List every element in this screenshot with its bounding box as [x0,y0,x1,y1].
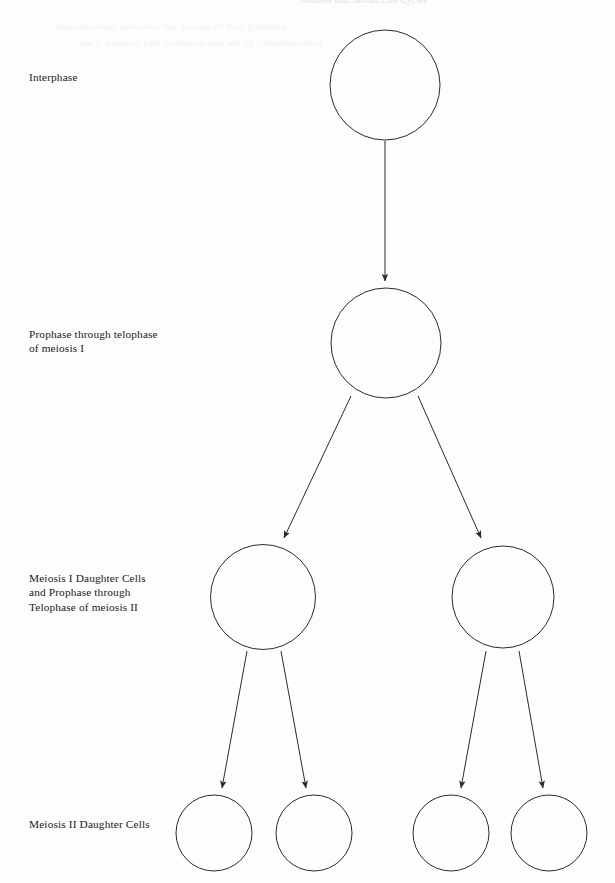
arrow-daughter-right-to-ii-3 [461,651,486,788]
arrow-daughter-right-to-ii-4 [519,651,543,788]
arrow-daughter-left-to-ii-1 [222,651,247,788]
stage-label-meiosis-i: Prophase through telophase of meiosis I [29,327,158,356]
meiosis-diagram [0,0,615,883]
stage-label-meiosis-i-daughter-cells: Meiosis I Daughter Cells and Prophase th… [29,571,146,614]
arrow-meiosis-i-to-daughter-right [418,396,481,538]
stage-label-interphase: Interphase [29,70,78,84]
cell-daughter-ii-1 [176,795,252,871]
diagram-page: Meiosis and Sexual Life Cycles reproduct… [0,0,615,883]
cell-daughter-ii-4 [511,795,587,871]
arrow-meiosis-i-to-daughter-left [284,396,351,538]
arrow-layer [222,141,543,788]
cell-meiosis-i-cell [331,288,441,398]
cell-daughter-ii-3 [413,795,489,871]
cell-interphase-cell [330,30,440,140]
cell-daughter-ii-2 [276,795,352,871]
cell-daughter-i-left [211,545,316,650]
stage-label-meiosis-ii-daughter-cells: Meiosis II Daughter Cells [29,817,150,831]
cell-daughter-i-right [452,546,554,648]
cell-layer [176,30,587,871]
arrow-daughter-left-to-ii-2 [281,651,306,788]
